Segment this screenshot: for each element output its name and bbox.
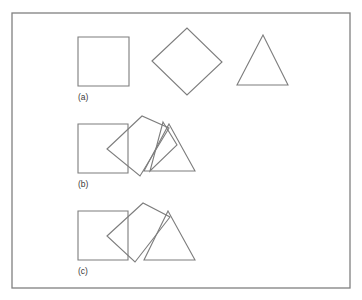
row-c-square [78,211,128,260]
row-a-label: (a) [78,92,89,102]
row-b-diamond [107,116,169,176]
row-a-group: (a) [78,28,288,102]
row-c-label: (c) [78,266,88,276]
row-b-triangle-small-rotated [150,122,177,171]
shapes-diagram: (a) (b) (c) [0,0,362,300]
row-c-group: (c) [78,203,195,276]
row-a-triangle [237,35,288,85]
row-a-diamond [152,28,222,95]
row-a-square [78,37,129,86]
row-b-label: (b) [78,179,89,189]
row-b-group: (b) [78,116,195,189]
figure-container: (a) (b) (c) [0,0,362,300]
figure-frame [12,13,350,288]
row-c-diamond [107,203,170,262]
row-b-square [78,124,128,173]
